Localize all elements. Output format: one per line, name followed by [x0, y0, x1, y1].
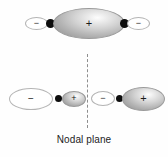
- lobe-sign: −: [28, 94, 34, 104]
- nodal-plane-dashed-line: [87, 54, 88, 128]
- lobe-sign: −: [100, 94, 105, 103]
- bottom-right-positive-lobe: +: [122, 87, 165, 111]
- top-right-negative-lobe: −: [127, 17, 150, 30]
- orbital-diagram: − + − − + − + Nodal plane: [0, 0, 168, 157]
- lobe-sign: −: [136, 19, 141, 28]
- lobe-sign: +: [140, 93, 146, 104]
- top-left-negative-lobe: −: [25, 17, 48, 30]
- nodal-plane-caption: Nodal plane: [0, 134, 168, 145]
- top-center-positive-lobe: +: [53, 8, 125, 39]
- bottom-left-negative-lobe: −: [9, 88, 53, 110]
- bottom-left-nucleus-dot: [55, 95, 62, 102]
- lobe-sign: +: [86, 18, 92, 29]
- lobe-sign: +: [71, 94, 76, 103]
- bottom-right-negative-lobe: −: [91, 91, 115, 106]
- lobe-sign: −: [34, 19, 39, 28]
- bottom-left-positive-lobe: +: [62, 91, 86, 107]
